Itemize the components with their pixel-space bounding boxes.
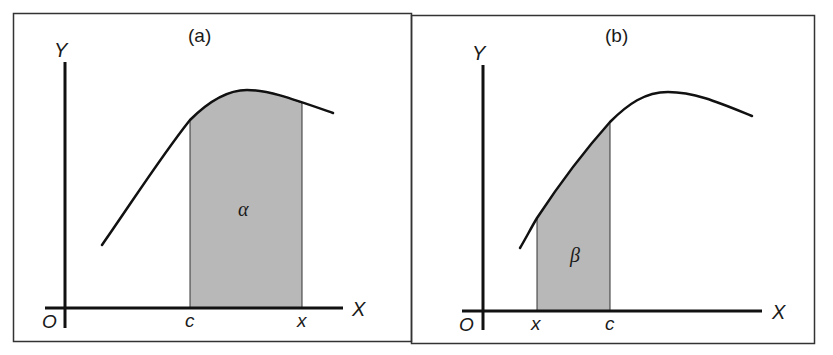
y-axis-label-a: Y	[54, 39, 69, 61]
panel-a: (a) Y X O c x α	[42, 25, 366, 332]
region-label-alpha: α	[238, 198, 249, 220]
panel-title-a: (a)	[188, 25, 211, 46]
panel-b-frame	[412, 16, 815, 344]
region-label-beta: β	[569, 244, 580, 267]
tick-label-b-right: c	[605, 313, 615, 334]
tick-label-a-left: c	[185, 310, 195, 331]
figure-canvas: (a) Y X O c x α (b) Y X O x c β	[0, 0, 833, 355]
tick-label-a-right: x	[296, 310, 308, 331]
panel-title-b: (b)	[605, 25, 628, 46]
y-axis-label-b: Y	[472, 42, 487, 64]
origin-label-a: O	[42, 311, 57, 332]
x-axis-label-a: X	[351, 298, 366, 320]
shaded-region-beta	[537, 122, 610, 311]
x-axis-label-b: X	[771, 301, 786, 323]
tick-label-b-left: x	[530, 313, 542, 334]
origin-label-b: O	[459, 314, 474, 335]
panel-b: (b) Y X O x c β	[459, 25, 786, 335]
